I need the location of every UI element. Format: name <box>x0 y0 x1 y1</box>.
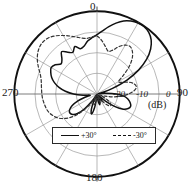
angle-label-90: 90 <box>177 87 188 98</box>
legend-label-plus30: +30° <box>81 132 97 140</box>
radial-unit-label: (dB) <box>148 100 166 110</box>
polar-radiation-pattern-figure: 0 90 180 270 -20 -10 0 (dB) +30° -30° <box>0 0 194 188</box>
legend-entry-minus30: -30° <box>113 132 147 140</box>
angle-label-0: 0 <box>90 1 96 12</box>
trace-plus30-deg <box>51 21 152 115</box>
angle-label-270: 270 <box>2 87 19 98</box>
legend-line-dashed-icon <box>113 135 131 136</box>
radial-label-zero: 0 <box>166 90 171 99</box>
legend-label-minus30: -30° <box>133 132 147 140</box>
radial-label-minus20: -20 <box>113 90 125 99</box>
angle-label-180: 180 <box>86 172 103 183</box>
chart-legend: +30° -30° <box>52 127 156 144</box>
polar-plot-canvas <box>0 0 194 188</box>
legend-line-solid-icon <box>61 135 79 136</box>
radial-label-minus10: -10 <box>136 90 148 99</box>
legend-entry-plus30: +30° <box>61 132 97 140</box>
